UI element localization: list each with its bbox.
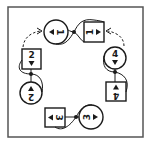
circle-node-1-label-group: 1 [49, 29, 65, 35]
circle-node-3-label-group: 3 [82, 114, 98, 120]
square-node-2-label-group: 2 [28, 50, 34, 66]
junction-dot-left [29, 72, 33, 76]
arrow-left-icon [96, 29, 101, 35]
pairing-diagram: 1 1 2 2 4 [0, 0, 146, 149]
circle-node-4-label: 4 [112, 49, 118, 59]
pair-right: 4 4 [103, 47, 127, 101]
square-node-3-label: 3 [54, 114, 64, 120]
pair-left: 2 2 [19, 49, 42, 104]
arrow-down-icon [112, 60, 118, 65]
square-node-1-label-group: 1 [85, 29, 101, 35]
junction-dot-top [72, 30, 76, 34]
arrow-right-icon [49, 29, 54, 35]
arrow-up-icon [113, 85, 119, 90]
dashed-arrow-right [106, 28, 124, 46]
arrow-left-icon [93, 114, 98, 120]
junction-dot-right [113, 70, 117, 74]
arrow-right-icon [48, 115, 53, 121]
arrow-up-icon [28, 86, 34, 91]
dashed-arrow-left [23, 28, 42, 47]
square-node-2-label: 2 [28, 50, 34, 60]
square-node-4-label-group: 4 [113, 85, 119, 101]
circle-node-4-label-group: 4 [112, 49, 118, 65]
arrow-down-icon [29, 61, 35, 66]
circle-node-3-label: 3 [82, 114, 92, 120]
pair-top: 1 1 [44, 20, 104, 45]
square-node-3-label-group: 3 [48, 114, 64, 120]
square-node-1-label: 1 [85, 29, 95, 35]
circle-node-1-label: 1 [55, 29, 65, 35]
connector-top-2 [68, 30, 84, 42]
circle-node-2-label: 2 [28, 92, 34, 102]
pair-bottom: 3 3 [45, 105, 103, 129]
circle-node-2-label-group: 2 [28, 86, 34, 102]
square-node-4-label: 4 [113, 91, 119, 101]
junction-dot-bottom [74, 115, 78, 119]
